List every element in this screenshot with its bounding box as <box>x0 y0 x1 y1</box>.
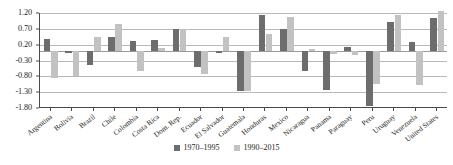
x-axis-tick-mark <box>222 108 223 111</box>
bar <box>115 24 122 51</box>
bar <box>409 42 416 51</box>
x-axis-tick-mark <box>350 108 351 111</box>
bar <box>330 51 337 54</box>
legend-label: 1970–1995 <box>184 144 220 152</box>
chart-legend: 1970–19951990–2015 <box>0 144 453 152</box>
x-axis-tick-label: Bolivia <box>53 113 75 133</box>
x-axis-tick-mark <box>71 108 72 111</box>
bar-group <box>169 13 190 107</box>
bar <box>244 51 251 91</box>
bar-group <box>233 13 254 107</box>
bar <box>44 39 51 51</box>
x-axis-tick-label: Brazil <box>77 113 96 130</box>
x-axis-tick-mark <box>415 108 416 111</box>
bar <box>216 51 223 53</box>
bar-group <box>40 13 61 107</box>
y-axis-tick-label: -1.80 <box>15 104 32 112</box>
bar <box>201 51 208 74</box>
bar <box>416 51 423 85</box>
x-axis-tick-mark <box>286 108 287 111</box>
bar-group <box>126 13 147 107</box>
x-axis-tick-mark <box>243 108 244 111</box>
bar <box>108 37 115 51</box>
x-axis-tick-mark <box>114 108 115 111</box>
x-axis-label-wrap: Bolivia <box>53 113 75 133</box>
y-axis-tick-label: 0.70 <box>18 25 32 33</box>
bar <box>366 51 373 106</box>
bar <box>438 11 445 51</box>
x-axis-tick-mark <box>393 108 394 111</box>
bar <box>151 40 158 51</box>
bar <box>223 37 230 51</box>
bar <box>259 15 266 51</box>
bar <box>194 51 201 67</box>
x-axis-tick-mark <box>50 108 51 111</box>
y-axis-tick-label: -1.30 <box>15 88 32 96</box>
bar <box>137 51 144 71</box>
x-axis-tick-mark <box>157 108 158 111</box>
x-axis-tick-label: Argentina <box>26 113 54 137</box>
bar <box>387 22 394 51</box>
bar <box>323 51 330 90</box>
bar <box>51 51 58 78</box>
bar <box>344 47 351 51</box>
bar-chart-figure: 1.200.700.20-0.30-0.80-1.30-1.80 Argenti… <box>0 0 453 165</box>
bar-group <box>341 13 362 107</box>
bar-group <box>104 13 125 107</box>
bar <box>352 51 359 55</box>
y-axis-tick-label: -0.30 <box>15 56 32 64</box>
legend-swatch-icon <box>234 145 240 151</box>
legend-swatch-icon <box>174 145 180 151</box>
y-axis-tick-label: -0.80 <box>15 72 32 80</box>
x-axis-tick-mark <box>179 108 180 111</box>
bar-group <box>298 13 319 107</box>
x-axis-tick-mark <box>307 108 308 111</box>
bar-group <box>255 13 276 107</box>
bar-group <box>190 13 211 107</box>
bar <box>302 51 309 71</box>
legend-label: 1990–2015 <box>244 144 280 152</box>
x-axis-tick-mark <box>136 108 137 111</box>
y-axis: 1.200.700.20-0.30-0.80-1.30-1.80 <box>0 13 36 108</box>
bar <box>130 41 137 51</box>
x-axis-tick-mark <box>264 108 265 111</box>
x-axis-label-wrap: Argentina <box>26 113 54 137</box>
bar-group <box>384 13 405 107</box>
bar-group <box>319 13 340 107</box>
bar <box>395 15 402 51</box>
bar <box>87 51 94 65</box>
legend-item: 1990–2015 <box>234 144 280 152</box>
bar <box>237 51 244 91</box>
bar <box>266 34 273 51</box>
x-axis-tick-mark <box>93 108 94 111</box>
bar <box>94 37 101 51</box>
bar <box>430 18 437 51</box>
bars-layer <box>40 13 447 107</box>
bar-group <box>212 13 233 107</box>
bar-group <box>427 13 448 107</box>
bar-group <box>405 13 426 107</box>
y-axis-tick-label: 1.20 <box>18 9 32 17</box>
y-axis-tick-label: 0.20 <box>18 41 32 49</box>
bar <box>373 51 380 84</box>
bar <box>287 17 294 51</box>
x-axis-tick-mark <box>436 108 437 111</box>
x-axis-label-wrap: Brazil <box>77 113 96 130</box>
bar <box>180 29 187 51</box>
bar-group <box>276 13 297 107</box>
bar <box>65 51 72 53</box>
x-axis-tick-mark <box>372 108 373 111</box>
x-axis-tick-mark <box>329 108 330 111</box>
x-axis-label-wrap: Paraguay <box>328 113 355 136</box>
x-axis-tick-label: Paraguay <box>328 113 355 136</box>
bar-group <box>362 13 383 107</box>
legend-item: 1970–1995 <box>174 144 220 152</box>
plot-area <box>39 13 447 108</box>
bar <box>158 48 165 51</box>
bar-group <box>83 13 104 107</box>
bar <box>309 49 316 51</box>
bar <box>73 51 80 76</box>
bar-group <box>61 13 82 107</box>
bar-group <box>147 13 168 107</box>
x-axis-tick-mark <box>200 108 201 111</box>
